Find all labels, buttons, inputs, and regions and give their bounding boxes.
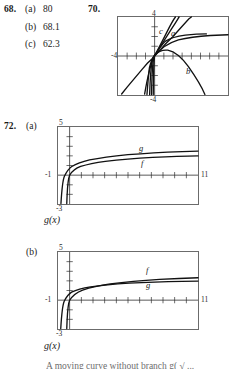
chart-72a-curvelabel-f: f <box>141 159 143 168</box>
caption-72b: g(x) <box>44 341 60 351</box>
answer-key-page: 68. (a) 80 (b) 68.1 (c) 62.3 70. <box>0 0 230 369</box>
chart-70-curvelabel-b: b <box>186 67 190 76</box>
chart-72b-curve-f <box>67 278 198 329</box>
question-number-72: 72. <box>4 122 16 132</box>
answer-68-a-label: (a) <box>25 5 43 15</box>
page-tail-text: A moving curve without branch g( √ ... <box>46 362 194 369</box>
chart-70-curvelabel-a: a <box>171 29 175 38</box>
chart-70-container: 4 -4 -4 a b c <box>112 10 230 102</box>
answer-68-row-a: 68. (a) 80 <box>4 5 60 15</box>
chart-70-curvelabel-c: c <box>159 27 163 36</box>
question-72-part-b-label: (b) <box>26 248 37 258</box>
answer-68-b-value: 68.1 <box>43 23 60 33</box>
chart-72a-svg <box>58 127 198 204</box>
chart-72a-label-left: -1 <box>45 171 51 179</box>
answer-68-row-c: (c) 62.3 <box>4 40 60 50</box>
chart-70-label-top: 4 <box>152 10 156 18</box>
chart-72b-curvelabel-f: f <box>146 266 148 275</box>
question-number-68: 68. <box>4 5 25 15</box>
chart-70-label-left: -4 <box>111 52 117 60</box>
answer-68-row-b: (b) 68.1 <box>4 23 60 33</box>
question-number-70: 70. <box>88 5 100 15</box>
chart-72b-svg <box>58 252 198 329</box>
caption-72a-text: g(x) <box>44 214 60 225</box>
chart-72b-curvelabel-g: g <box>146 281 150 290</box>
chart-70-label-bottom: -4 <box>150 96 156 104</box>
chart-72a-container: 5 -1 11 -3 g f <box>45 118 225 213</box>
chart-72b-label-right: 11 <box>201 296 208 304</box>
answer-block-68: 68. (a) 80 (b) 68.1 (c) 62.3 <box>4 5 60 50</box>
chart-72a-curvelabel-g: g <box>139 144 143 153</box>
chart-70-curve-a <box>122 17 192 94</box>
chart-72a-frame <box>57 126 199 205</box>
chart-72b-label-left: -1 <box>45 296 51 304</box>
chart-72b-frame <box>57 251 199 330</box>
answer-68-c-label: (c) <box>25 40 43 50</box>
chart-72b-curve-g <box>61 281 198 328</box>
chart-72a-axes <box>58 127 198 204</box>
caption-72a: g(x) <box>44 215 60 225</box>
chart-72a-curve-f <box>67 156 198 204</box>
caption-72b-text: g(x) <box>44 340 60 351</box>
chart-72b-label-bottom: -3 <box>56 330 62 338</box>
chart-72b-axes <box>58 252 198 329</box>
answer-68-a-value: 80 <box>43 5 53 15</box>
answer-68-c-value: 62.3 <box>43 40 60 50</box>
question-72-part-a-label: (a) <box>26 122 37 132</box>
chart-72a-label-right: 11 <box>201 171 208 179</box>
chart-72a-label-bottom: -3 <box>56 205 62 213</box>
chart-72b-label-top: 5 <box>59 244 63 252</box>
answer-68-b-label: (b) <box>25 23 43 33</box>
chart-72b-container: 5 -1 11 -3 f g <box>45 243 225 338</box>
chart-72a-label-top: 5 <box>59 119 63 127</box>
